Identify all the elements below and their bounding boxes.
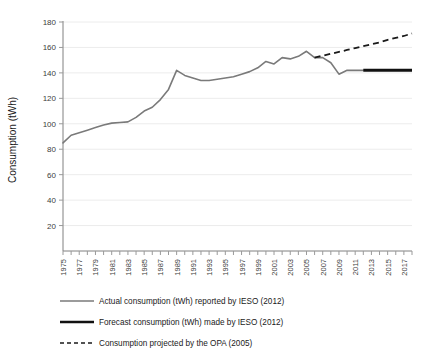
x-tick-label-1999: 1999	[254, 259, 263, 276]
x-tick-label-1977: 1977	[75, 259, 84, 276]
x-tick-label-1989: 1989	[173, 259, 182, 276]
y-tick-label-140: 140	[43, 69, 57, 78]
y-tick-label-80: 80	[47, 145, 56, 154]
x-tick-label-2003: 2003	[286, 259, 295, 276]
x-tick-label-1991: 1991	[189, 259, 198, 276]
x-tick-label-2011: 2011	[351, 259, 360, 275]
x-tick-label-1997: 1997	[238, 259, 247, 276]
y-tick-label-120: 120	[43, 94, 57, 103]
consumption-chart: 20406080100120140160180 1975197719791981…	[0, 0, 424, 359]
gridlines	[63, 22, 412, 226]
x-tick-label-1987: 1987	[156, 259, 165, 276]
x-axis: 1975197719791981198319851987198919911993…	[59, 251, 412, 276]
y-tick-label-160: 160	[43, 43, 57, 52]
x-tick-label-2009: 2009	[335, 259, 344, 276]
x-tick-label-2017: 2017	[400, 259, 409, 276]
x-tick-label-1981: 1981	[108, 259, 117, 276]
x-tick-label-1995: 1995	[221, 259, 230, 276]
x-tick-label-1975: 1975	[59, 259, 68, 276]
x-tick-label-2007: 2007	[319, 259, 328, 276]
x-tick-label-1985: 1985	[140, 259, 149, 276]
x-tick-label-2005: 2005	[302, 259, 311, 276]
series-lines	[63, 33, 412, 142]
legend-label-actual: Actual consumption (tWh) reported by IES…	[99, 297, 284, 306]
chart-legend: Actual consumption (tWh) reported by IES…	[60, 297, 284, 348]
x-tick-label-1983: 1983	[124, 259, 133, 276]
legend-label-opa: Consumption projected by the OPA (2005)	[99, 339, 252, 348]
y-tick-label-180: 180	[43, 18, 57, 27]
y-axis: 20406080100120140160180	[43, 18, 63, 251]
x-tick-label-1979: 1979	[91, 259, 100, 276]
y-tick-label-40: 40	[47, 196, 56, 205]
x-tick-label-2001: 2001	[270, 259, 279, 276]
x-tick-label-2013: 2013	[367, 259, 376, 276]
y-tick-label-20: 20	[47, 222, 56, 231]
y-tick-label-100: 100	[43, 120, 57, 129]
x-tick-label-2015: 2015	[384, 259, 393, 276]
y-axis-title: Consumption (tWh)	[7, 97, 18, 183]
legend-label-forecast: Forecast consumption (tWh) made by IESO …	[99, 318, 284, 327]
y-tick-label-60: 60	[47, 171, 56, 180]
chart-canvas: 20406080100120140160180 1975197719791981…	[0, 0, 424, 359]
series-line-actual	[63, 51, 363, 143]
x-tick-label-1993: 1993	[205, 259, 214, 276]
series-line-opa	[315, 33, 412, 57]
